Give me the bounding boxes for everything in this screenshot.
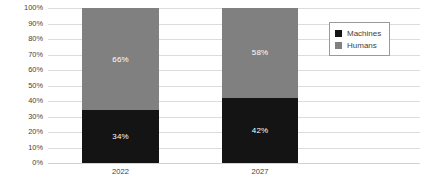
legend-swatch-icon	[335, 30, 342, 37]
bar-data-label: 42%	[252, 126, 268, 135]
bar-group-2027[interactable]: 58% 42%	[222, 8, 298, 163]
bar-segment-humans-2022[interactable]: 66%	[82, 8, 159, 110]
y-axis-tick-label: 20%	[0, 128, 43, 136]
legend-item-humans[interactable]: Humans	[335, 39, 381, 51]
legend-item-machines[interactable]: Machines	[335, 27, 381, 39]
y-axis-tick-label: 10%	[0, 144, 43, 152]
bar-segment-machines-2027[interactable]: 42%	[222, 98, 298, 163]
bar-group-2022[interactable]: 66% 34%	[82, 8, 159, 163]
bar-segment-machines-2022[interactable]: 34%	[82, 110, 159, 163]
y-axis-tick-label: 40%	[0, 97, 43, 105]
y-axis-tick-label: 30%	[0, 113, 43, 121]
bar-segment-humans-2027[interactable]: 58%	[222, 8, 298, 98]
bar-data-label: 34%	[112, 132, 128, 141]
legend-label: Humans	[347, 41, 377, 50]
y-axis-tick-label: 50%	[0, 82, 43, 90]
legend-label: Machines	[347, 29, 381, 38]
y-axis-tick-label: 90%	[0, 20, 43, 28]
x-axis-category-label-2022: 2022	[82, 167, 159, 176]
y-axis-tick-label: 0%	[0, 159, 43, 167]
y-axis: 100% 90% 80% 70% 60% 50% 40% 30% 20% 10%…	[0, 8, 46, 163]
y-axis-tick-label: 70%	[0, 51, 43, 59]
y-axis-tick-label: 100%	[0, 4, 43, 12]
bar-data-label: 66%	[112, 55, 128, 64]
bar-data-label: 58%	[252, 48, 268, 57]
x-axis-category-label-2027: 2027	[222, 167, 298, 176]
legend-swatch-icon	[335, 42, 342, 49]
chart-legend: Machines Humans	[329, 22, 390, 56]
stacked-bar-chart: 100% 90% 80% 70% 60% 50% 40% 30% 20% 10%…	[0, 0, 426, 185]
y-axis-tick-label: 80%	[0, 35, 43, 43]
y-axis-tick-label: 60%	[0, 66, 43, 74]
axis-baseline	[48, 163, 420, 164]
